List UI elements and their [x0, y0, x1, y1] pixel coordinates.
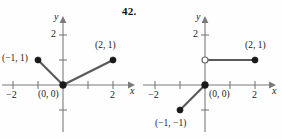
- y-tick-label-2-right: 2: [193, 29, 198, 39]
- point-label-origin-right: (0, 0): [209, 90, 230, 100]
- point-label-neg1-1-left: (−1, 1): [2, 54, 28, 64]
- y-axis-label-left: y: [54, 12, 58, 22]
- point-right-open-0-1: [202, 57, 208, 63]
- x-tick-label-2-right: 2: [252, 90, 257, 100]
- point-left-origin: [60, 82, 67, 89]
- point-label-neg1-neg1-right: (−1, −1): [155, 119, 186, 129]
- figure-root: 42. y x: [0, 0, 282, 139]
- x-tick-label-neg2-right: −2: [148, 90, 159, 100]
- plot-left-canvas: [0, 0, 141, 139]
- plot-left: y x 2 −2 2 (−1, 1) (2, 1) (0, 0): [0, 0, 141, 139]
- x-tick-label-neg2-left: −2: [6, 90, 17, 100]
- point-left-2-1: [110, 57, 116, 63]
- y-axis-label-right: y: [196, 12, 200, 22]
- point-right-neg1-neg1: [177, 107, 183, 113]
- segment-left-descending: [38, 60, 63, 85]
- y-axis-arrowhead-right: [202, 16, 209, 23]
- point-label-2-1-left: (2, 1): [95, 41, 116, 51]
- x-axis-label-right: x: [272, 86, 276, 96]
- plot-right: y x 2 −2 2 (2, 1) (0, 0) (−1, −1): [141, 0, 282, 139]
- point-label-2-1-right: (2, 1): [245, 41, 266, 51]
- segment-right-descending: [180, 85, 205, 110]
- x-tick-label-2-left: 2: [110, 90, 115, 100]
- x-axis-label-left: x: [130, 86, 134, 96]
- point-right-2-1: [252, 57, 258, 63]
- point-left-neg1-1: [35, 57, 41, 63]
- y-tick-label-2-left: 2: [51, 29, 56, 39]
- point-right-origin: [202, 82, 209, 89]
- y-axis-arrowhead-left: [60, 16, 67, 23]
- point-label-origin-left: (0, 0): [38, 90, 59, 100]
